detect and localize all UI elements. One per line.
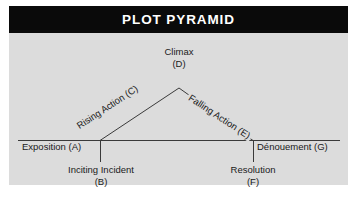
label-inciting-incident-key: (B) (68, 176, 134, 188)
pyramid-line-art (0, 0, 358, 211)
label-exposition: Exposition (A) (20, 141, 83, 153)
label-resolution-key: (F) (231, 176, 276, 188)
label-climax: Climax (D) (164, 46, 193, 69)
label-inciting-incident-name: Inciting Incident (68, 164, 134, 175)
label-resolution: Resolution (F) (231, 164, 276, 187)
label-climax-name: Climax (164, 46, 193, 57)
label-inciting-incident: Inciting Incident (B) (68, 164, 134, 187)
label-climax-key: (D) (164, 58, 193, 70)
label-denouement: Dénouement (G) (255, 141, 330, 153)
plot-pyramid-figure: PLOT PYRAMID Climax (D) Rising Action (C… (0, 0, 358, 211)
label-resolution-name: Resolution (231, 164, 276, 175)
